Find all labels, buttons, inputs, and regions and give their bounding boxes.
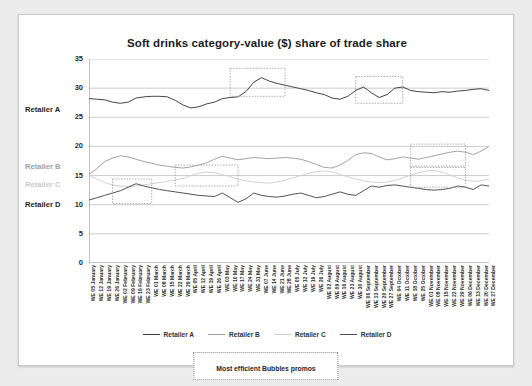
gridlines bbox=[89, 59, 489, 234]
x-axis-tick: WE 15 March bbox=[170, 265, 175, 297]
x-axis-tick: WE 04 October bbox=[397, 265, 402, 301]
y-axis-tick: 20 bbox=[57, 142, 83, 150]
x-axis-tick: WE 17 May bbox=[240, 265, 245, 292]
line-chart-svg bbox=[89, 59, 489, 263]
x-axis-tick: WE 02 February bbox=[123, 265, 128, 304]
x-axis-tick: WE 22 March bbox=[178, 265, 183, 297]
x-axis-tick: WE 14 June bbox=[272, 265, 277, 294]
x-axis-tick: WE 23 August bbox=[350, 265, 355, 299]
x-axis-tick: WE 25 October bbox=[421, 265, 426, 301]
x-axis-tick: WE 19 April bbox=[209, 265, 214, 293]
x-axis-tick: WE 05 April bbox=[193, 265, 198, 293]
x-axis-tick: WE 15 November bbox=[444, 265, 449, 307]
x-axis-tick: WE 26 July bbox=[319, 265, 324, 292]
x-axis-tick: WE 06 December bbox=[468, 265, 473, 306]
x-axis-tick: WE 16 February bbox=[138, 265, 143, 304]
x-axis-tick: WE 10 May bbox=[233, 265, 238, 292]
y-axis-tick: 35 bbox=[57, 55, 83, 63]
x-axis-tick: WE 22 November bbox=[452, 265, 457, 307]
x-axis-tick: WE 31 May bbox=[256, 265, 261, 292]
page-title: Soft drinks category-value ($) share of … bbox=[19, 37, 515, 49]
legend: Retailer ARetailer BRetailer CRetailer D bbox=[19, 331, 515, 338]
x-axis-tick: WE 30 August bbox=[358, 265, 363, 299]
x-axis-tick: WE 11 October bbox=[405, 265, 410, 301]
x-axis-tick: WE 01 November bbox=[429, 265, 434, 307]
legend-item-1[interactable]: Retailer A bbox=[143, 331, 195, 338]
x-axis-tick: WE 29 November bbox=[460, 265, 465, 307]
x-axis-tick: WE 07 June bbox=[264, 265, 269, 294]
x-axis-tick: WE 23 February bbox=[146, 265, 151, 304]
x-axis-tick-labels: WE 05 JanuaryWE 12 JanuaryWE 19 JanuaryW… bbox=[89, 265, 489, 327]
series-lines bbox=[89, 78, 489, 203]
axes bbox=[89, 59, 489, 263]
x-axis-tick: WE 06 September bbox=[366, 265, 371, 308]
legend-item-4[interactable]: Retailer D bbox=[340, 331, 392, 338]
x-axis-tick: WE 26 April bbox=[217, 265, 222, 293]
annotation-label: Most efficient Bubbles promos bbox=[216, 365, 315, 372]
series-side-label-3: Retailer C bbox=[25, 181, 81, 189]
x-axis-tick: WE 08 November bbox=[436, 265, 441, 307]
x-axis-tick: WE 09 August bbox=[335, 265, 340, 299]
y-axis-tick: 0 bbox=[57, 259, 83, 267]
x-axis-tick: WE 19 July bbox=[311, 265, 316, 292]
series-side-label-1: Retailer A bbox=[25, 106, 81, 114]
x-axis-tick: WE 27 September bbox=[389, 265, 394, 308]
x-axis-tick: WE 29 March bbox=[186, 265, 191, 297]
x-axis-tick: WE 05 January bbox=[91, 265, 96, 301]
highlight-boxes bbox=[113, 68, 466, 203]
x-axis-tick: WE 08 March bbox=[162, 265, 167, 297]
legend-item-2[interactable]: Retailer B bbox=[208, 331, 260, 338]
x-axis-tick: WE 03 May bbox=[225, 265, 230, 292]
legend-swatch-icon bbox=[340, 334, 357, 335]
x-axis-tick: WE 28 June bbox=[287, 265, 292, 294]
y-axis-tick: 15 bbox=[57, 172, 83, 180]
y-axis-tick: 30 bbox=[57, 84, 83, 92]
y-axis-tick: 5 bbox=[57, 230, 83, 238]
x-axis-tick: WE 12 January bbox=[99, 265, 104, 301]
x-axis-tick: WE 18 October bbox=[413, 265, 418, 301]
legend-label: Retailer B bbox=[229, 331, 260, 338]
y-axis-tick: 25 bbox=[57, 113, 83, 121]
x-axis-tick: WE 20 September bbox=[382, 265, 387, 308]
legend-label: Retailer A bbox=[164, 331, 195, 338]
series-side-label-4: Retailer D bbox=[25, 201, 81, 209]
x-axis-tick: WE 12 April bbox=[201, 265, 206, 293]
legend-swatch-icon bbox=[143, 334, 160, 335]
x-axis-tick: WE 16 August bbox=[342, 265, 347, 299]
x-axis-tick: WE 26 January bbox=[115, 265, 120, 301]
legend-label: Retailer C bbox=[295, 331, 326, 338]
x-axis-tick: WE 09 February bbox=[131, 265, 136, 304]
x-axis-tick: WE 20 December bbox=[484, 265, 489, 306]
x-axis-tick: WE 05 July bbox=[295, 265, 300, 292]
x-axis-tick: WE 19 January bbox=[107, 265, 112, 301]
legend-item-3[interactable]: Retailer C bbox=[274, 331, 326, 338]
plot-area bbox=[89, 59, 489, 263]
x-axis-tick: WE 27 December bbox=[491, 265, 496, 306]
annotation-box: Most efficient Bubbles promos bbox=[193, 352, 338, 380]
legend-swatch-icon bbox=[208, 334, 225, 335]
chart-card: Soft drinks category-value ($) share of … bbox=[18, 14, 514, 366]
x-axis-tick: WE 21 June bbox=[280, 265, 285, 294]
x-axis-tick: WE 13 September bbox=[374, 265, 379, 308]
x-axis-tick: WE 24 May bbox=[248, 265, 253, 292]
x-axis-tick: WE 01 March bbox=[154, 265, 159, 297]
legend-swatch-icon bbox=[274, 334, 291, 335]
x-axis-tick: WE 12 July bbox=[303, 265, 308, 292]
legend-label: Retailer D bbox=[361, 331, 392, 338]
series-side-label-2: Retailer B bbox=[25, 163, 81, 171]
x-axis-tick: WE 13 December bbox=[476, 265, 481, 306]
x-axis-tick: WE 02 August bbox=[327, 265, 332, 299]
